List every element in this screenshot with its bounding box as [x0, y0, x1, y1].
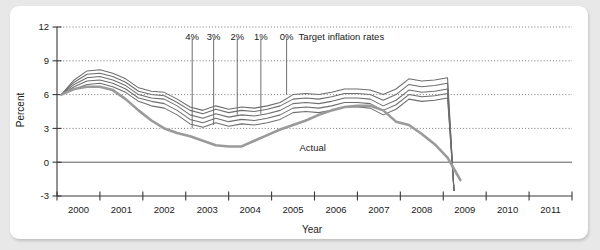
- y-axis-title: Percent: [15, 93, 26, 128]
- y-tick-label-3: 3: [44, 123, 49, 134]
- x-tick-label-2002: 2002: [154, 204, 175, 215]
- target-label-1pct: 1%: [254, 31, 268, 42]
- series-line-0pct: [61, 83, 454, 190]
- x-tick-label-2000: 2000: [68, 204, 89, 215]
- x-tick-label-2004: 2004: [240, 204, 261, 215]
- x-tick-label-2009: 2009: [454, 204, 475, 215]
- x-axis: 2000200120022003200420052006200720082009…: [57, 192, 572, 216]
- series-line-2pct: [61, 77, 454, 191]
- target-label-4pct: 4%: [185, 31, 199, 42]
- x-tick-label-2010: 2010: [497, 204, 518, 215]
- x-tick-label-2001: 2001: [111, 204, 132, 215]
- target-label-0pct: 0%: [280, 31, 294, 42]
- y-tick-label-12: 12: [38, 21, 49, 32]
- chart-annotations: 4%3%2%1%0%Target inflation ratesActual: [185, 31, 384, 153]
- x-tick-label-2007: 2007: [368, 204, 389, 215]
- actual-series-label: Actual: [299, 142, 325, 153]
- y-tick-label-6: 6: [44, 89, 49, 100]
- page-background: 129630-3 2000200120022003200420052006200…: [0, 0, 600, 250]
- series-line-3pct: [61, 73, 454, 190]
- y-tick-label-9: 9: [44, 55, 49, 66]
- x-tick-label-2005: 2005: [282, 204, 303, 215]
- target-label-2pct: 2%: [230, 31, 244, 42]
- x-axis-title: Year: [302, 224, 323, 235]
- target-label-3pct: 3%: [207, 31, 221, 42]
- inflation-forecast-chart: 129630-3 2000200120022003200420052006200…: [0, 0, 600, 250]
- y-axis: 129630-3: [38, 21, 61, 201]
- x-tick-label-2008: 2008: [411, 204, 432, 215]
- scenario-series-group: [61, 70, 454, 191]
- x-tick-label-2006: 2006: [325, 204, 346, 215]
- x-tick-label-2003: 2003: [197, 204, 218, 215]
- target-annotation-title: Target inflation rates: [299, 31, 385, 42]
- y-tick-label-0: 0: [44, 157, 49, 168]
- y-tick-label--3: -3: [41, 190, 49, 201]
- series-line-4pct: [61, 70, 454, 191]
- x-tick-label-2011: 2011: [540, 204, 560, 215]
